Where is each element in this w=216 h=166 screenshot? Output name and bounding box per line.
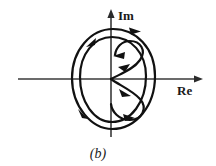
s-branch-upper-path bbox=[111, 41, 143, 79]
arrow-outer-bottom-left-icon bbox=[78, 109, 88, 119]
nyquist-diagram: Im Re (b) bbox=[0, 0, 216, 166]
s-branch-lower-path bbox=[111, 79, 144, 120]
figure-caption: (b) bbox=[90, 146, 107, 162]
real-axis-arrow-icon bbox=[194, 75, 203, 82]
imaginary-axis-label: Im bbox=[118, 8, 134, 23]
arrow-outer-top-icon bbox=[129, 28, 141, 35]
imaginary-axis-arrow-icon bbox=[107, 9, 114, 18]
figure-container: Im Re (b) bbox=[0, 0, 216, 166]
real-axis-label: Re bbox=[177, 83, 192, 98]
